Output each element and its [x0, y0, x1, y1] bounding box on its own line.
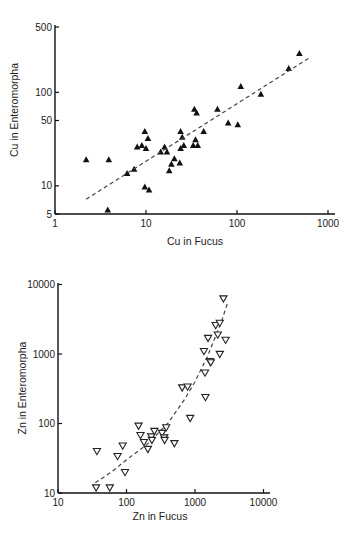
data-point-triangle: [144, 446, 151, 452]
cu-fit-line: [86, 57, 311, 199]
data-point-triangle: [141, 128, 148, 134]
x-tick-label: 10: [140, 218, 152, 229]
data-point-triangle: [141, 183, 148, 189]
data-point-triangle: [201, 370, 208, 376]
y-tick-label: 1000: [33, 349, 56, 360]
x-tick-label: 1: [52, 218, 58, 229]
figure: 51050100500 1101001000 Cu in Fucus Cu in…: [0, 0, 353, 535]
data-point-triangle: [93, 449, 100, 455]
data-point-triangle: [258, 91, 265, 97]
data-point-triangle: [161, 143, 168, 149]
data-point-triangle: [137, 433, 144, 439]
data-point-triangle: [214, 106, 221, 112]
x-tick-label: 10000: [250, 497, 278, 508]
data-point-triangle: [200, 349, 207, 355]
cu-x-ticks: 1101001000: [52, 210, 339, 229]
y-tick-label: 50: [41, 115, 53, 126]
data-point-triangle: [145, 135, 152, 141]
cu-y-axis-title: Cu in Enteromorpha: [8, 63, 20, 157]
data-point-triangle: [187, 415, 194, 421]
data-point-triangle: [135, 423, 142, 429]
data-point-triangle: [114, 453, 121, 459]
zn-x-axis-title: Zn in Fucus: [133, 510, 188, 522]
data-point-triangle: [202, 394, 209, 400]
cu-x-axis-title: Cu in Fucus: [167, 235, 223, 247]
data-point-triangle: [222, 337, 229, 343]
data-point-triangle: [192, 136, 199, 142]
data-point-triangle: [161, 437, 168, 443]
y-tick-label: 100: [35, 87, 52, 98]
data-point-triangle: [234, 121, 241, 127]
x-tick-label: 100: [229, 218, 246, 229]
data-point-triangle: [200, 128, 207, 134]
data-point-triangle: [93, 485, 100, 491]
data-point-triangle: [296, 50, 303, 56]
data-point-triangle: [285, 65, 292, 71]
data-point-triangle: [171, 441, 178, 447]
zn-y-ticks: 10100100010000: [27, 279, 62, 499]
zn-scatter-chart: 10100100010000 10100100010000 Zn in Fucu…: [16, 279, 278, 522]
x-tick-label: 1000: [317, 218, 340, 229]
data-point-triangle: [180, 142, 187, 148]
x-tick-label: 100: [118, 497, 135, 508]
data-point-triangle: [216, 351, 223, 357]
data-point-triangle: [220, 296, 227, 302]
data-point-triangle: [176, 160, 183, 166]
data-point-triangle: [237, 83, 244, 89]
data-point-triangle: [139, 142, 146, 148]
zn-y-axis-title: Zn in Enteromorpha: [16, 341, 28, 434]
data-point-triangle: [177, 128, 184, 134]
y-tick-label: 10000: [27, 279, 55, 290]
data-point-triangle: [225, 119, 232, 125]
data-point-triangle: [104, 207, 111, 213]
data-point-triangle: [105, 156, 112, 162]
data-point-triangle: [119, 443, 126, 449]
y-tick-label: 500: [35, 22, 52, 33]
data-point-triangle: [83, 156, 90, 162]
y-tick-label: 100: [38, 418, 55, 429]
x-tick-label: 1000: [184, 497, 207, 508]
data-point-triangle: [106, 485, 113, 491]
data-point-triangle: [194, 142, 201, 148]
zn-x-ticks: 10100100010000: [52, 489, 277, 508]
cu-scatter-chart: 51050100500 1101001000 Cu in Fucus Cu in…: [8, 22, 340, 248]
data-point-triangle: [168, 161, 175, 167]
data-point-triangle: [204, 335, 211, 341]
y-tick-label: 10: [41, 180, 53, 191]
data-point-triangle: [148, 437, 155, 443]
zn-data-points: [93, 296, 230, 491]
x-tick-label: 10: [52, 497, 64, 508]
data-point-triangle: [166, 167, 173, 173]
data-point-triangle: [121, 469, 128, 475]
data-point-triangle: [171, 155, 178, 161]
